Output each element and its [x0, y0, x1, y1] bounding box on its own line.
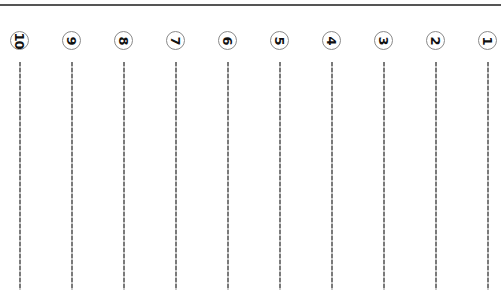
badge-number: 6: [221, 36, 234, 44]
number-badge: 7: [166, 31, 185, 50]
badge-number: 5: [273, 36, 286, 44]
badge-number: 4: [325, 36, 338, 44]
number-badge: 8: [114, 31, 133, 50]
number-badge: 9: [62, 31, 81, 50]
dashed-cut-line: [71, 62, 73, 290]
number-badge: 3: [374, 31, 393, 50]
badge-number: 2: [429, 36, 442, 44]
number-badge: 5: [270, 31, 289, 50]
number-badge: 4: [322, 31, 341, 50]
badge-number: 3: [377, 36, 390, 44]
dashed-cut-line: [279, 62, 281, 290]
dashed-cut-line: [331, 62, 333, 290]
badge-number: 7: [169, 36, 182, 44]
dashed-cut-line: [383, 62, 385, 290]
number-badge: 10: [10, 31, 29, 50]
number-badge: 1: [478, 31, 497, 50]
badge-number: 10: [13, 32, 26, 48]
dashed-cut-line: [175, 62, 177, 290]
dashed-cut-line: [123, 62, 125, 290]
dashed-cut-line: [487, 62, 489, 290]
top-border-line: [0, 4, 501, 6]
badge-number: 8: [117, 36, 130, 44]
badge-number: 1: [481, 36, 494, 44]
badge-number: 9: [65, 36, 78, 44]
dashed-cut-line: [19, 62, 21, 290]
number-badge: 6: [218, 31, 237, 50]
number-badge: 2: [426, 31, 445, 50]
dashed-cut-line: [435, 62, 437, 290]
dashed-cut-line: [227, 62, 229, 290]
